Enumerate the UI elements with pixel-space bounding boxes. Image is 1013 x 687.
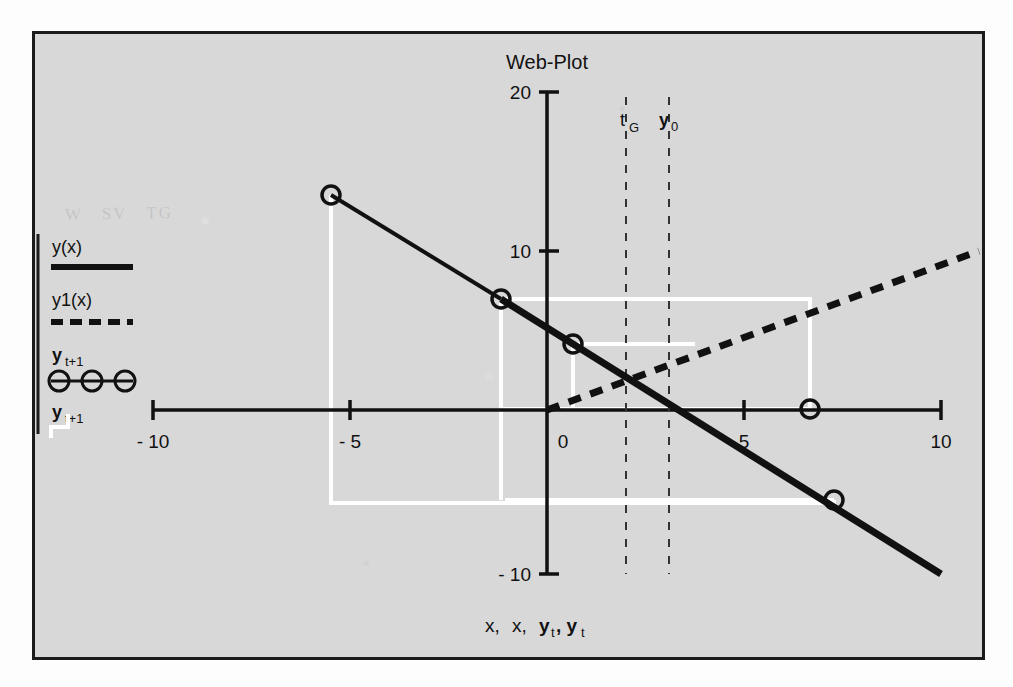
vline-label-t: t (620, 110, 625, 130)
legend-label-y1-of-x: y1(x) (52, 290, 92, 310)
legend-label-y-subscript: t+1 (65, 354, 83, 369)
legend-label-y-of-x: y(x) (52, 237, 82, 257)
legend-label-y-t-plus-1-circles: y t+1 (52, 345, 83, 369)
y-tick-label-20: 20 (510, 82, 531, 103)
plot-frame: W SV TG y(x) y1(x) y t+1 (32, 31, 985, 660)
series-y1-of-x (547, 251, 979, 410)
x-tick-label-0: 0 (558, 431, 569, 452)
plot-title: Web-Plot (506, 51, 588, 73)
vertical-line-label-y0: y 0 (659, 110, 678, 134)
vertical-line-label-tG: t G (620, 110, 639, 135)
x-axis-title: x, x, y t , y t (485, 615, 585, 640)
x-tick-label--5: - 5 (339, 431, 361, 452)
y-tick-label--10: - 10 (498, 564, 531, 585)
legend-label-y-symbol: y (52, 345, 62, 365)
x-tick-label--10: - 10 (137, 431, 170, 452)
series-y-of-x-thin (331, 195, 501, 299)
x-axis-title-part-d: , y (556, 615, 578, 636)
legend-label-y-symbol-2: y (52, 402, 62, 422)
scanned-page: W SV TG y(x) y1(x) y t+1 (0, 0, 1013, 687)
legend: y(x) y1(x) y t+1 y (38, 234, 135, 438)
x-axis-title-part-b: x, (512, 615, 527, 636)
x-axis-title-part-a: x, (485, 615, 500, 636)
vline-label-t-sub: G (629, 120, 639, 135)
x-axis-title-part-c-sub: t (551, 625, 555, 640)
x-axis-title-part-c: y (539, 615, 550, 636)
vline-label-y-sub: 0 (671, 119, 678, 134)
x-axis-title-part-d-sub: t (581, 625, 585, 640)
circle-marker-line-swatch (49, 371, 135, 391)
vline-label-y: y (659, 110, 669, 130)
plot-canvas: y(x) y1(x) y t+1 y (35, 34, 982, 657)
x-tick-label-10: 10 (930, 431, 951, 452)
y-tick-label-10: 10 (510, 241, 531, 262)
